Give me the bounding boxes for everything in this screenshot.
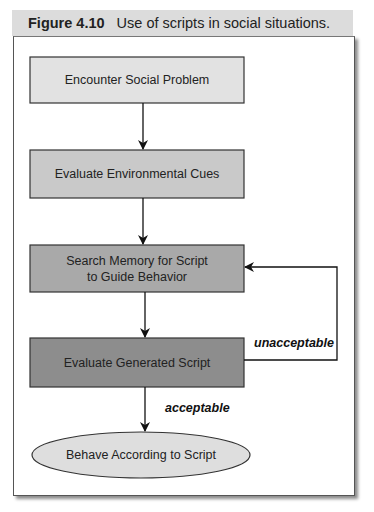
node-label: Encounter Social Problem (65, 73, 210, 87)
node-search-memory: Search Memory for Script to Guide Behavi… (30, 245, 244, 292)
flowchart: Encounter Social Problem Evaluate Enviro… (0, 0, 374, 512)
node-label: Behave According to Script (66, 448, 217, 462)
node-label-line-2: to Guide Behavior (87, 270, 187, 284)
node-label: Evaluate Generated Script (64, 356, 211, 370)
node-box (30, 245, 244, 292)
node-label: Evaluate Environmental Cues (55, 167, 220, 181)
node-encounter-social-problem: Encounter Social Problem (30, 57, 244, 103)
edge-label-unacceptable: unacceptable (254, 336, 334, 350)
node-evaluate-environmental-cues: Evaluate Environmental Cues (30, 150, 244, 198)
node-evaluate-generated-script: Evaluate Generated Script (30, 338, 244, 387)
node-label-line-1: Search Memory for Script (66, 254, 208, 268)
node-behave-according-to-script: Behave According to Script (32, 432, 250, 478)
edge-label-acceptable: acceptable (165, 401, 230, 415)
